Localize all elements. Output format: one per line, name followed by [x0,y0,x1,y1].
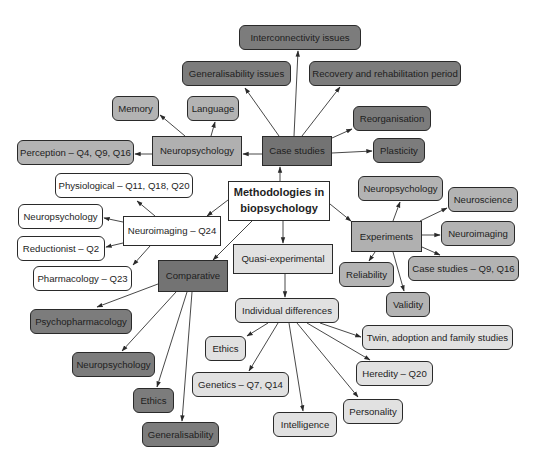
node-id-personality: Personality [343,399,403,424]
node-cs-recovery: Recovery and rehabilitation period [309,61,461,86]
node-label: Generalisability [148,429,214,440]
node-label: Neuroimaging – Q24 [128,225,217,236]
node-label: Reorganisation [360,113,425,124]
node-cs-generalisability: Generalisability issues [182,61,291,86]
arrow-case_studies-to-cs_generalisability [245,88,279,136]
arrow-individual_differences-to-id_personality [297,323,358,397]
node-label: Recovery and rehabilitation period [312,68,458,79]
node-label: Reductionist – Q2 [23,243,99,254]
node-label: Neuropsychology [160,145,234,156]
node-cmp-generalisability: Generalisability [142,422,219,447]
node-individual-differences: Individual differences [235,298,339,323]
node-label: Interconnectivity issues [250,32,349,43]
arrow-comparative-to-cmp_ethics [157,292,187,387]
node-np-memory: Memory [112,96,159,121]
node-id-twin: Twin, adoption and family studies [362,325,513,350]
arrow-center-to-experiments [330,204,351,221]
node-label: Neuroimaging [448,228,508,239]
node-label: Heredity – Q20 [362,368,427,379]
node-label: Personality [349,406,396,417]
node-ni-reductionist: Reductionist – Q2 [17,236,105,261]
node-id-genetics: Genetics – Q7, Q14 [192,372,289,397]
node-label: Quasi-experimental [241,253,324,264]
node-ni-pharmacology: Pharmacology – Q23 [33,266,132,291]
mind-map-diagram: Methodologies in biopsychologyCase studi… [0,0,533,462]
node-ex-neuroimaging: Neuroimaging [441,221,515,246]
node-label: Twin, adoption and family studies [367,332,508,343]
arrow-case_studies-to-cs_interconnectivity [294,51,298,136]
arrow-neuroimaging-to-ni_pharmacology [133,246,150,265]
node-label: Intelligence [281,419,330,430]
node-neuroimaging: Neuroimaging – Q24 [123,216,221,246]
node-label: Neuroscience [454,194,513,205]
arrow-experiments-to-ex_validity [393,252,404,291]
arrow-individual_differences-to-id_ethics [247,323,268,336]
node-label: Reliability [346,269,387,280]
node-label: Physiological – Q11, Q18, Q20 [58,180,189,191]
arrow-neuroimaging-to-ni_reductionist [106,243,123,247]
node-quasi: Quasi-experimental [233,244,333,274]
node-center: Methodologies in biopsychology [228,181,330,221]
node-cmp-ethics: Ethics [133,388,174,413]
arrow-case_studies-to-cs_recovery [302,87,340,136]
node-np-perception: Perception – Q4, Q9, Q16 [17,140,134,165]
node-label: Comparative [166,270,220,281]
node-label: Neuropsychology [23,211,97,222]
node-label: Methodologies in biopsychology [229,185,329,217]
node-label: Ethics [140,395,166,406]
node-neuropsychology: Neuropsychology [152,136,242,166]
node-cs-reorganisation: Reorganisation [353,106,431,131]
node-ni-physiological: Physiological – Q11, Q18, Q20 [55,173,193,198]
arrow-case_studies-to-cs_reorganisation [332,129,352,138]
node-label: Psychopharmacology [35,316,127,327]
node-ex-neuroscience: Neuroscience [448,187,518,212]
arrow-individual_differences-to-id_intelligence [289,323,303,411]
node-label: Ethics [212,343,238,354]
node-id-intelligence: Intelligence [273,412,337,437]
node-comparative: Comparative [158,260,228,292]
node-label: Perception – Q4, Q9, Q16 [20,147,131,158]
node-experiments: Experiments [351,221,422,252]
node-label: Neuropsychology [76,359,150,370]
node-ex-validity: Validity [386,292,430,317]
node-label: Case studies – Q9, Q16 [412,263,514,274]
node-label: Memory [118,103,153,114]
arrow-case_studies-to-cs_plasticity [332,151,372,153]
arrow-neuroimaging-to-ni_neuropsychology [104,218,123,222]
node-ex-neuropsychology: Neuropsychology [358,176,443,201]
arrow-experiments-to-ex_case_studies [422,247,440,255]
node-label: Validity [393,299,423,310]
node-ni-neuropsychology: Neuropsychology [18,204,103,229]
node-label: Plasticity [380,145,418,156]
node-label: Genetics – Q7, Q14 [198,379,283,390]
arrow-neuroimaging-to-ni_physiological [137,201,155,216]
arrow-neuropsychology-to-np_memory [160,115,185,136]
arrow-comparative-to-cmp_generalisability [182,292,192,421]
node-np-language: Language [187,96,239,121]
node-label: Neuropsychology [363,183,437,194]
node-id-ethics: Ethics [205,336,246,361]
node-id-heredity: Heredity – Q20 [356,361,433,386]
arrow-experiments-to-ex_neuropsychology [393,202,400,221]
arrow-individual_differences-to-id_heredity [307,323,370,360]
node-ex-case-studies: Case studies – Q9, Q16 [408,256,519,281]
node-label: Pharmacology – Q23 [37,273,127,284]
node-cmp-psychopharmacology: Psychopharmacology [30,309,132,334]
arrow-neuropsychology-to-np_language [211,122,215,136]
arrow-center-to-neuroimaging [207,200,228,216]
arrow-individual_differences-to-id_twin [320,323,361,337]
node-label: Case studies [269,145,324,156]
node-ex-reliability: Reliability [339,262,394,287]
node-cs-plasticity: Plasticity [373,138,425,163]
node-label: Experiments [360,231,413,242]
node-label: Generalisability issues [189,68,284,79]
arrow-experiments-to-ex_reliability [369,252,375,261]
node-label: Language [192,103,235,114]
node-case-studies: Case studies [262,136,332,166]
node-label: Individual differences [242,305,332,316]
node-cmp-neuropsychology: Neuropsychology [72,352,155,377]
arrow-individual_differences-to-id_genetics [249,323,278,371]
node-cs-interconnectivity: Interconnectivity issues [239,25,361,50]
arrow-experiments-to-ex_neuroscience [420,208,447,221]
